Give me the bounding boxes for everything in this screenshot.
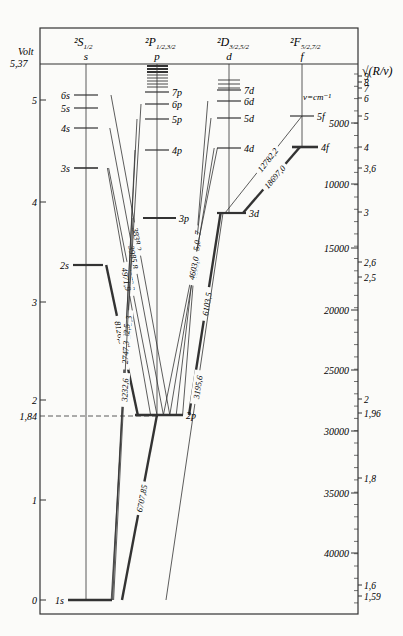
level-label: 5d xyxy=(244,113,255,124)
sqrt-tick-label: 1,59 xyxy=(364,592,381,602)
term-symbol: ²F5/2,7/2 xyxy=(290,35,321,51)
wavenumber-tick: 25000 xyxy=(324,365,358,376)
term-symbol: ²S1/2 xyxy=(74,35,93,51)
wavelength-label: 3232,6 xyxy=(119,377,130,403)
term-letter: ²P xyxy=(145,35,157,49)
energy-level-5f: 5f xyxy=(290,111,326,122)
energy-level-2p: 2p xyxy=(135,410,196,421)
energy-level-6p: 6p xyxy=(145,99,182,110)
volt-axis-top-label: 5,37 xyxy=(10,58,29,69)
level-label: 4p xyxy=(172,145,182,156)
level-label: 7d xyxy=(244,85,255,96)
volt-tick-label: 0 xyxy=(32,595,37,606)
grotrian-diagram: ²S1/2s²P1/2,3/2p²D3/2,5/2d²F5/2,7/2fVolt… xyxy=(0,0,403,636)
wavenumber-tick-label: 25000 xyxy=(324,365,349,376)
sqrt-tick: 4 xyxy=(358,143,369,153)
volt-tick: 4 xyxy=(32,197,46,208)
sqrt-tick-label: 3,6 xyxy=(363,164,376,174)
level-label: 6s xyxy=(61,90,70,101)
energy-level-4s: 4s xyxy=(61,123,98,134)
sqrt-tick: 3 xyxy=(358,208,369,218)
sqrt-tick-label: 2 xyxy=(364,395,369,405)
volt-axis-title: Volt xyxy=(18,46,34,57)
level-label: 2p xyxy=(186,410,196,421)
column-f: ²F5/2,7/2f xyxy=(290,35,321,147)
level-label: 6d xyxy=(244,96,255,107)
volt-tick: 1 xyxy=(32,495,46,506)
wavelength-label: 6707,85 xyxy=(134,484,149,513)
level-label: 4f xyxy=(321,142,330,153)
level-label: 5s xyxy=(61,103,70,114)
sqrt-tick: 1,59 xyxy=(358,592,381,602)
sqrt-tick: 3,6 xyxy=(358,164,376,174)
energy-level-3s: 3s xyxy=(60,163,98,174)
term-symbol: ²P1/2,3/2 xyxy=(145,35,176,51)
term-letter: ²F xyxy=(290,35,302,49)
column-letter: s xyxy=(84,50,88,62)
column-letter: d xyxy=(226,50,232,62)
energy-level-4d: 4d xyxy=(217,143,255,154)
wavenumber-tick-label: 40000 xyxy=(324,548,349,559)
wavenumber-tick-label: 20000 xyxy=(324,305,349,316)
wavelength-label: 6103,5 xyxy=(200,292,213,317)
energy-level-5p: 5p xyxy=(145,114,182,125)
wavenumber-tick-label: 5000 xyxy=(329,118,349,129)
column-letter: p xyxy=(153,50,160,62)
sqrt-tick-label: 3 xyxy=(363,208,369,218)
energy-level-7d: 7d xyxy=(217,85,255,96)
volt-tick-label: 4 xyxy=(32,197,37,208)
volt-tick-label: 1,84 xyxy=(20,411,38,422)
energy-level-6s: 6s xyxy=(61,90,98,101)
level-label: 6p xyxy=(172,99,182,110)
sqrt-tick-label: 5 xyxy=(364,112,369,122)
column-s: ²S1/2s xyxy=(74,35,93,600)
wavelength-label: 3195,6 xyxy=(191,374,205,400)
wavenumber-tick-label: 30000 xyxy=(323,426,349,437)
sqrt-tick: 7 xyxy=(358,84,370,94)
energy-level-2s: 2s xyxy=(60,260,103,271)
volt-tick: 0 xyxy=(32,595,46,606)
term-symbol: ²D3/2,5/2 xyxy=(217,35,249,51)
sqrt-tick-label: 1,8 xyxy=(364,474,376,484)
wavenumber-tick-label: 35000 xyxy=(323,488,349,499)
sqrt-tick-label: 7 xyxy=(364,84,370,94)
wavenumber-tick: 5000 xyxy=(329,118,358,129)
sqrt-tick: 1,6 xyxy=(358,581,376,591)
transition-line: 12782,2 xyxy=(225,116,302,213)
transition-line: 6707,85 xyxy=(122,415,157,600)
level-label: 5f xyxy=(317,111,326,122)
column-d: ²D3/2,5/2d xyxy=(217,35,249,213)
sqrt-tick-label: 1,96 xyxy=(364,409,381,419)
level-label: 7p xyxy=(172,87,182,98)
wavenumber-tick: 10000 xyxy=(324,179,358,190)
level-label: 3d xyxy=(248,208,260,219)
energy-level-5d: 5d xyxy=(217,113,255,124)
sqrt-tick-label: 6 xyxy=(364,94,369,104)
wavenumber-tick: 30000 xyxy=(323,426,358,437)
sqrt-tick: 6 xyxy=(358,94,369,104)
sqrt-tick: 1,8 xyxy=(358,474,376,484)
sqrt-tick-label: 2,6 xyxy=(364,258,376,268)
level-label: 5p xyxy=(172,114,182,125)
level-label: 4d xyxy=(244,143,255,154)
sqrt-tick-label: 4 xyxy=(364,143,369,153)
volt-tick-label: 3 xyxy=(31,297,37,308)
energy-level-5s: 5s xyxy=(61,103,98,114)
term-subscript: 5/2,7/2 xyxy=(301,43,321,51)
wavenumber-tick: 40000 xyxy=(324,548,358,559)
sqrt-tick-label: 2,5 xyxy=(364,273,376,283)
energy-level-1s: 1s xyxy=(55,595,112,606)
wavenumber-tick: 35000 xyxy=(323,488,358,499)
sqrt-tick: 5 xyxy=(358,112,369,122)
term-letter: ²S xyxy=(74,35,84,49)
level-label: 3p xyxy=(178,213,189,224)
wavenumber-tick: 15000 xyxy=(324,243,358,254)
volt-tick-label: 1 xyxy=(32,495,37,506)
energy-level-3p: 3p xyxy=(143,213,189,224)
energy-level-7p: 7p xyxy=(145,87,182,98)
sqrt-tick: 2,5 xyxy=(358,273,376,283)
wavenumber-unit-label: ν=cm⁻¹ xyxy=(303,92,331,102)
term-letter: ²D xyxy=(217,35,230,49)
wavenumber-tick: 20000 xyxy=(324,305,358,316)
level-label: 4s xyxy=(61,123,70,134)
